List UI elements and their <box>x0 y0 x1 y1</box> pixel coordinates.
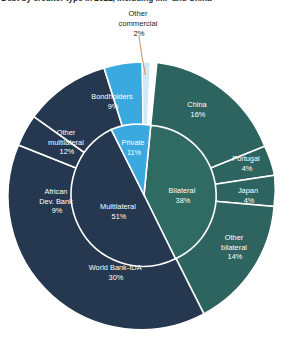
label-multilateral-name: Multilateral <box>100 202 136 211</box>
label-japan-name: Japan <box>238 186 258 195</box>
label-private-name: Private <box>121 138 144 147</box>
label-other-commercial: Other commercial 2% <box>119 9 160 38</box>
label-bondholders-pct: 9% <box>108 101 119 110</box>
chart-canvas: Debt by creditor type in 2021, including… <box>0 0 292 337</box>
label-other-commercial-l1: Other <box>128 9 147 18</box>
label-afdb-pct: 9% <box>52 206 63 215</box>
label-other-bilateral-l1: Other <box>225 233 244 242</box>
label-multilateral-pct: 51% <box>112 211 127 220</box>
label-japan-pct: 4% <box>244 195 255 204</box>
label-bondholders-name: Bondholders <box>91 92 133 101</box>
label-other-bilateral-pct: 14% <box>228 252 243 261</box>
label-other-commercial-pct: 2% <box>134 29 145 38</box>
label-portugal-name: Portugal <box>232 154 260 163</box>
label-bilateral-pct: 38% <box>176 195 191 204</box>
label-afdb-l2: Dev. Bank <box>39 196 73 205</box>
label-private-pct: 11% <box>127 147 142 156</box>
label-other-commercial-l2: commercial <box>119 19 158 28</box>
label-portugal-pct: 4% <box>242 163 253 172</box>
label-other-bilateral-l2: bilateral <box>221 242 247 251</box>
label-afdb-l1: African <box>44 187 67 196</box>
label-other-multi-l1: Other <box>57 128 76 137</box>
label-world-bank-name: World Bank-IDA <box>89 263 142 272</box>
label-other-multi-pct: 12% <box>60 147 75 156</box>
label-bilateral-name: Bilateral <box>169 186 196 195</box>
sunburst-chart: China 16% Portugal 4% Japan 4% Other bil… <box>0 0 292 337</box>
label-china-pct: 16% <box>191 109 206 118</box>
label-other-multi-l2: multilateral <box>48 137 84 146</box>
label-world-bank-pct: 30% <box>109 272 124 281</box>
label-china-name: China <box>187 100 207 109</box>
